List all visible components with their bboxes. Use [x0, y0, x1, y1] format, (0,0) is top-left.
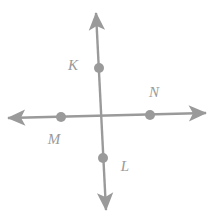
point-m — [56, 112, 66, 122]
geometry-figure: KMNL — [0, 0, 216, 216]
label-k: K — [68, 58, 78, 73]
point-markers — [56, 63, 155, 163]
label-n: N — [149, 85, 159, 100]
point-n — [145, 110, 155, 120]
label-l: L — [121, 159, 129, 174]
horizontal-line — [8, 113, 206, 118]
figure-canvas — [0, 0, 216, 216]
point-l — [98, 153, 108, 163]
vertical-line — [96, 13, 106, 210]
label-m: M — [48, 132, 61, 147]
point-k — [94, 63, 104, 73]
